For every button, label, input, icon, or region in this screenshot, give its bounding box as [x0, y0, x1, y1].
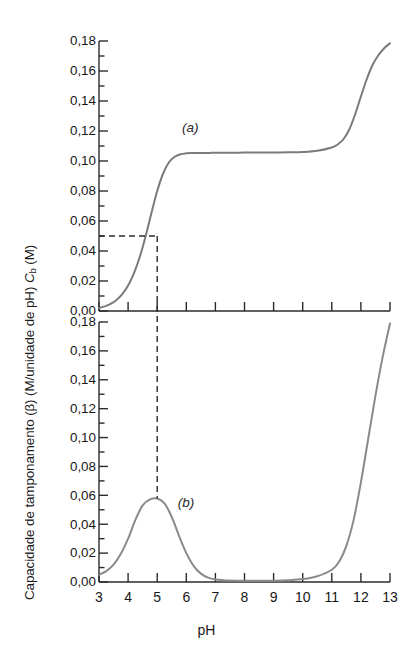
- y-axis-title-subscript: b: [27, 268, 38, 273]
- y-axis-title-symbol: C: [22, 274, 37, 284]
- y-tick-label-b: 0,08: [40, 460, 96, 473]
- x-tick-label: 3: [84, 589, 114, 605]
- x-tick-label: 12: [346, 589, 376, 605]
- y-tick-label-b: 0,16: [40, 344, 96, 357]
- x-tick-label: 11: [317, 589, 347, 605]
- guides-layer: [99, 236, 157, 499]
- curve-label-a: (a): [182, 120, 199, 135]
- x-tick-label: 4: [113, 589, 143, 605]
- y-tick-label-a: 0,18: [40, 34, 96, 47]
- x-tick-label: 7: [200, 589, 230, 605]
- x-tick-label: 9: [259, 589, 289, 605]
- y-tick-label-a: 0,02: [40, 274, 96, 287]
- data-curve-a: [99, 43, 390, 308]
- y-tick-label-b: 0,10: [40, 431, 96, 444]
- y-tick-label-b: 0,02: [40, 546, 96, 559]
- y-tick-label-column: 0,000,020,040,060,080,100,120,140,160,18…: [38, 0, 96, 661]
- y-tick-label-a: 0,04: [40, 244, 96, 257]
- y-tick-label-a: 0,08: [40, 184, 96, 197]
- curve-label-b: (b): [178, 495, 195, 510]
- series-layer: [99, 43, 390, 581]
- y-tick-label-a: 0,06: [40, 214, 96, 227]
- y-tick-label-a: 0,16: [40, 64, 96, 77]
- figure-container: Capacidade de tamponamento (β) (M/unidad…: [0, 0, 413, 661]
- y-tick-label-b: 0,18: [40, 315, 96, 328]
- y-tick-label-b: 0,14: [40, 373, 96, 386]
- y-tick-label-b: 0,04: [40, 518, 96, 531]
- y-tick-label-b: 0,12: [40, 402, 96, 415]
- y-axis-title-suffix: (M): [22, 245, 37, 268]
- data-curve-b: [99, 323, 390, 580]
- x-tick-label: 8: [230, 589, 260, 605]
- y-tick-label-a: 0,14: [40, 94, 96, 107]
- x-axis-title: pH: [0, 622, 413, 638]
- y-axis-title-prefix: Capacidade de tamponamento (β) (M/unidad…: [22, 283, 37, 600]
- x-tick-label: 6: [171, 589, 201, 605]
- y-tick-label-b: 0,00: [40, 575, 96, 588]
- x-tick-label: 10: [288, 589, 318, 605]
- x-tick-label: 13: [375, 589, 405, 605]
- x-tick-label: 5: [142, 589, 172, 605]
- axes-layer: [99, 41, 390, 582]
- y-tick-label-a: 0,12: [40, 124, 96, 137]
- y-tick-label-b: 0,06: [40, 489, 96, 502]
- y-tick-label-a: 0,10: [40, 154, 96, 167]
